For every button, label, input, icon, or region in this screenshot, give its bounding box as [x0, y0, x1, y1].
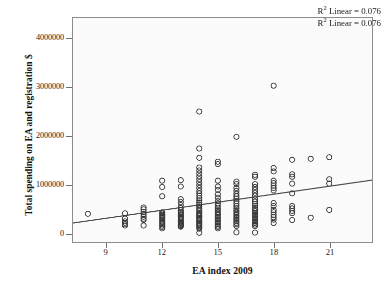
y-tick-mark	[66, 38, 72, 39]
legend-entry-1: R2 Linear = 0.076	[318, 18, 381, 30]
x-tick-mark	[218, 243, 219, 248]
x-tick-label: 21	[326, 247, 335, 257]
scatter-canvas	[73, 18, 372, 242]
x-tick-mark	[274, 243, 275, 248]
y-tick-mark	[66, 185, 72, 186]
x-tick-label: 9	[103, 247, 107, 257]
plot-area	[72, 17, 373, 243]
x-tick-label: 18	[270, 247, 279, 257]
y-tick-mark	[66, 87, 72, 88]
x-tick-label: 12	[157, 247, 166, 257]
scatter-plot-figure: 01000000200000030000004000000 912151821 …	[0, 0, 389, 292]
legend: R2 Linear = 0.076 R2 Linear = 0.076	[318, 6, 381, 29]
y-axis-title: Total spending on EA and registration $	[24, 20, 34, 250]
x-axis-title: EA index 2009	[72, 265, 373, 276]
y-tick-mark	[66, 136, 72, 137]
x-tick-mark	[330, 243, 331, 248]
legend-entry-0: R2 Linear = 0.076	[318, 6, 381, 18]
x-tick-mark	[162, 243, 163, 248]
y-tick-mark	[66, 234, 72, 235]
x-tick-label: 15	[214, 247, 223, 257]
x-tick-mark	[106, 243, 107, 248]
